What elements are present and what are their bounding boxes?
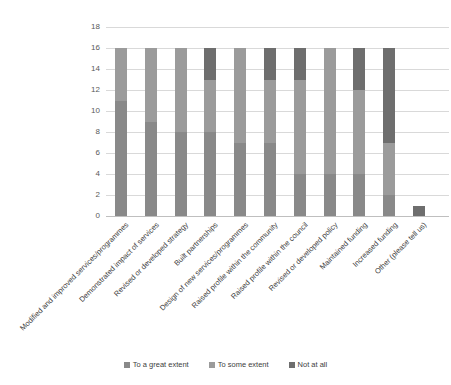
- bar-segment-to-a-great-extent: [175, 132, 187, 216]
- legend-label: To some extent: [218, 360, 269, 369]
- y-axis-tick-label: 12: [74, 86, 100, 94]
- bar-segment-not-at-all: [353, 48, 365, 90]
- legend-item-to-some-extent: To some extent: [209, 360, 269, 369]
- gridline: [106, 132, 449, 133]
- bar-segment-not-at-all: [413, 206, 425, 217]
- bar-segment-to-some-extent: [145, 48, 157, 122]
- bar-segment-not-at-all: [294, 48, 306, 80]
- legend-item-not-at-all: Not at all: [289, 360, 328, 369]
- bar-segment-to-some-extent: [383, 143, 395, 196]
- bar-segment-to-a-great-extent: [145, 122, 157, 217]
- x-axis-line: [106, 216, 449, 217]
- bar-segment-to-a-great-extent: [234, 143, 246, 217]
- stacked-bar-chart: 024681012141618Modified and improved ser…: [0, 0, 451, 385]
- y-axis-tick-label: 16: [74, 44, 100, 52]
- legend-item-to-a-great-extent: To a great extent: [124, 360, 189, 369]
- bar-segment-to-some-extent: [115, 48, 127, 101]
- bar-segment-to-a-great-extent: [115, 101, 127, 217]
- gridline: [106, 153, 449, 154]
- chart-legend: To a great extentTo some extentNot at al…: [0, 360, 451, 369]
- bar-segment-to-a-great-extent: [324, 174, 336, 216]
- bar-segment-to-some-extent: [324, 48, 336, 174]
- gridline: [106, 48, 449, 49]
- gridline: [106, 69, 449, 70]
- bar-segment-to-some-extent: [294, 80, 306, 175]
- legend-marker-icon: [124, 362, 130, 368]
- y-axis-tick-label: 4: [74, 170, 100, 178]
- y-axis-tick-label: 6: [74, 149, 100, 157]
- legend-marker-icon: [209, 362, 215, 368]
- y-axis-tick-label: 14: [74, 65, 100, 73]
- bar-segment-to-a-great-extent: [383, 195, 395, 216]
- y-axis-tick-label: 0: [74, 212, 100, 220]
- bar-segment-to-a-great-extent: [264, 143, 276, 217]
- bar-segment-not-at-all: [204, 48, 216, 80]
- bar-segment-to-a-great-extent: [353, 174, 365, 216]
- y-axis-tick-label: 2: [74, 191, 100, 199]
- gridline: [106, 174, 449, 175]
- legend-label: To a great extent: [133, 360, 189, 369]
- y-axis-tick-label: 18: [74, 23, 100, 31]
- bar-segment-to-a-great-extent: [294, 174, 306, 216]
- bar-segment-to-some-extent: [175, 48, 187, 132]
- category-label: Other (please tell us): [374, 221, 429, 276]
- legend-label: Not at all: [298, 360, 328, 369]
- category-label: Modified and improved services/programme…: [19, 221, 130, 332]
- bar-segment-to-some-extent: [264, 80, 276, 143]
- bar-segment-to-some-extent: [234, 48, 246, 143]
- y-axis-tick-label: 10: [74, 107, 100, 115]
- gridline: [106, 90, 449, 91]
- bar-segment-not-at-all: [264, 48, 276, 80]
- gridline: [106, 195, 449, 196]
- bar-segment-to-a-great-extent: [204, 132, 216, 216]
- bar-segment-to-some-extent: [204, 80, 216, 133]
- gridline: [106, 111, 449, 112]
- y-axis-tick-label: 8: [74, 128, 100, 136]
- bar-segment-not-at-all: [383, 48, 395, 143]
- legend-marker-icon: [289, 362, 295, 368]
- gridline: [106, 27, 449, 28]
- bar-segment-to-some-extent: [353, 90, 365, 174]
